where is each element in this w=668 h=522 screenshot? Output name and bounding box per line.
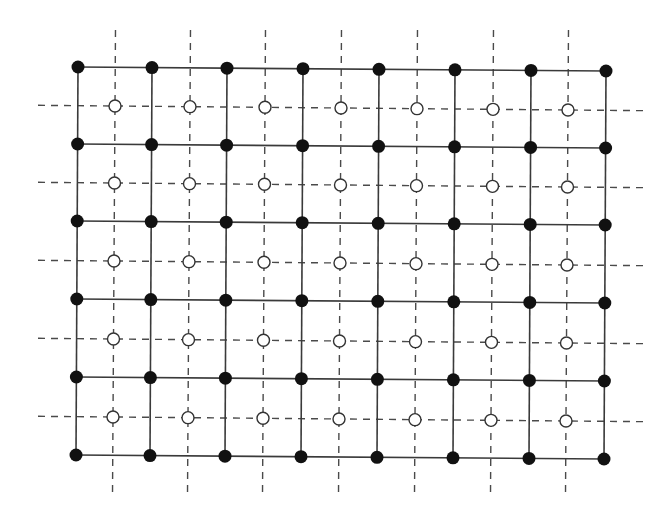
filled-node — [525, 64, 538, 77]
filled-node — [523, 296, 536, 309]
filled-node — [296, 216, 309, 229]
filled-node — [599, 142, 612, 155]
filled-node — [523, 452, 536, 465]
open-node — [410, 336, 422, 348]
filled-node — [372, 217, 385, 230]
open-node — [486, 336, 498, 348]
filled-node — [295, 294, 308, 307]
open-node — [183, 334, 195, 346]
open-node — [182, 412, 194, 424]
filled-node — [447, 451, 460, 464]
filled-node — [371, 451, 384, 464]
lattice-diagram — [0, 0, 668, 522]
filled-node — [371, 373, 384, 386]
open-node — [107, 411, 119, 423]
filled-node — [448, 217, 461, 230]
open-node — [410, 258, 422, 270]
open-node — [109, 177, 121, 189]
open-node — [258, 256, 270, 268]
filled-node — [145, 215, 158, 228]
filled-node — [447, 373, 460, 386]
filled-node — [221, 62, 234, 75]
filled-node — [70, 449, 83, 462]
filled-node — [70, 371, 83, 384]
open-node — [487, 103, 499, 115]
open-node — [409, 414, 421, 426]
filled-node — [146, 61, 159, 74]
open-node — [334, 257, 346, 269]
filled-node — [219, 372, 232, 385]
open-node — [259, 178, 271, 190]
filled-node — [144, 293, 157, 306]
filled-node — [220, 139, 233, 152]
filled-node — [71, 138, 84, 151]
open-node — [258, 334, 270, 346]
open-node — [411, 180, 423, 192]
open-node — [562, 181, 574, 193]
filled-node — [295, 372, 308, 385]
open-node — [333, 413, 345, 425]
open-node — [485, 414, 497, 426]
open-node — [183, 256, 195, 268]
filled-node — [598, 453, 611, 466]
open-node — [561, 337, 573, 349]
open-node — [487, 180, 499, 192]
filled-node — [297, 62, 310, 75]
open-node — [560, 415, 572, 427]
filled-node — [524, 218, 537, 231]
open-node — [334, 335, 346, 347]
open-node — [562, 104, 574, 116]
filled-node — [449, 63, 462, 76]
filled-node — [448, 140, 461, 153]
filled-node — [70, 293, 83, 306]
filled-node — [371, 295, 384, 308]
open-node — [335, 179, 347, 191]
filled-node — [296, 139, 309, 152]
filled-node — [219, 294, 232, 307]
filled-node — [600, 65, 613, 78]
filled-node — [447, 295, 460, 308]
open-node — [486, 258, 498, 270]
open-node — [108, 255, 120, 267]
filled-node — [72, 61, 85, 74]
filled-node — [372, 140, 385, 153]
open-node — [109, 100, 121, 112]
open-node — [411, 103, 423, 115]
open-node — [184, 178, 196, 190]
open-node — [335, 102, 347, 114]
filled-node — [220, 216, 233, 229]
filled-node — [71, 215, 84, 228]
filled-node — [524, 141, 537, 154]
filled-node — [598, 375, 611, 388]
filled-node — [144, 449, 157, 462]
open-node — [108, 333, 120, 345]
open-node — [257, 412, 269, 424]
open-node — [259, 101, 271, 113]
open-node — [561, 259, 573, 271]
filled-node — [219, 450, 232, 463]
open-node — [184, 101, 196, 113]
filled-node — [523, 374, 536, 387]
filled-node — [598, 297, 611, 310]
filled-node — [145, 138, 158, 151]
filled-node — [295, 450, 308, 463]
filled-node — [373, 63, 386, 76]
filled-node — [144, 371, 157, 384]
filled-node — [599, 219, 612, 232]
